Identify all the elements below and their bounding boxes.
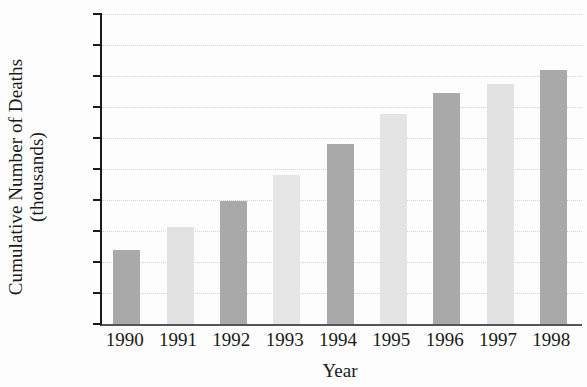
bar-1994 <box>327 144 354 324</box>
x-axis-tick-label-1997: 1997 <box>468 330 528 349</box>
bar-chart-figure: Cumulative Number of Deaths (thousands) … <box>0 0 587 387</box>
plot-area <box>100 14 582 326</box>
y-axis-tick <box>93 323 102 325</box>
y-axis-tick <box>93 106 102 108</box>
bar-1992 <box>220 201 247 324</box>
bar-1997 <box>487 84 514 324</box>
y-axis-tick <box>93 44 102 46</box>
y-axis-tick <box>93 230 102 232</box>
x-axis-tick-label-1992: 1992 <box>201 330 261 349</box>
bar-1991 <box>167 227 194 324</box>
bar-1998 <box>540 70 567 324</box>
bar-1993 <box>273 175 300 324</box>
y-axis-tick <box>93 137 102 139</box>
x-axis-tick-label-1994: 1994 <box>308 330 368 349</box>
x-axis-tick-label-1993: 1993 <box>255 330 315 349</box>
x-axis-tick-label-1991: 1991 <box>148 330 208 349</box>
x-axis-tick-label-1995: 1995 <box>361 330 421 349</box>
y-axis-tick <box>93 13 102 15</box>
bar-series <box>102 14 582 324</box>
x-axis-tick-label-1990: 1990 <box>95 330 155 349</box>
x-axis-title: Year <box>100 360 580 382</box>
x-axis-tick-label-1996: 1996 <box>415 330 475 349</box>
y-axis-tick <box>93 75 102 77</box>
y-axis-tick <box>93 292 102 294</box>
bar-1996 <box>433 93 460 324</box>
y-axis-tick <box>93 168 102 170</box>
bar-1990 <box>113 250 140 324</box>
y-axis-tick <box>93 199 102 201</box>
y-axis-tick <box>93 261 102 263</box>
x-axis-tick-labels: 199019911992199319941995199619971998 <box>100 330 580 356</box>
bar-1995 <box>380 114 407 324</box>
x-axis-tick-label-1998: 1998 <box>521 330 581 349</box>
